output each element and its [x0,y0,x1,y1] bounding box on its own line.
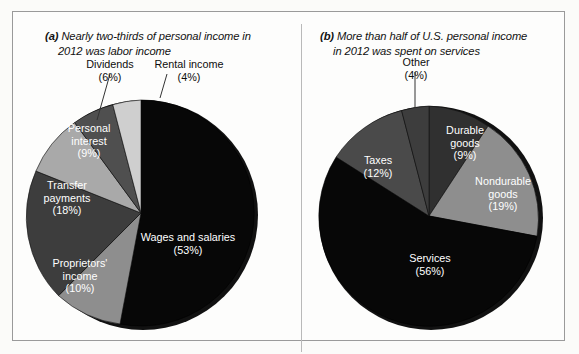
pie-b-label-taxes-pct: (12%) [342,167,414,180]
pie-b-label-durable-name: Durable [446,124,484,136]
pie-b-label-nondurable-name: Nondurable [475,175,531,187]
pie-a-label-wages-pct: (53%) [123,244,253,257]
pie-b-label-durable-pct: (9%) [427,149,503,162]
pie-a-label-transfer-name: Transfer [47,179,87,191]
pie-b-label-services-pct: (56%) [380,265,480,278]
pie-a-label-rental-pct: (4%) [135,71,243,84]
pie-a-label-dividends-name: Dividends [86,58,133,70]
figure-frame: (a) Nearly two-thirds of personal income… [12,11,565,341]
pie-a-label-transfer-pct: (18%) [19,204,115,217]
pie-a-label-interest-pct: (9%) [45,147,133,160]
pie-b-label-nondurable-pct: (19%) [457,200,549,213]
pie-b-label-services: Services (56%) [380,252,480,277]
pie-b-label-other: Other (4%) [370,56,462,81]
pie-b-label-other-pct: (4%) [370,69,462,82]
pie-a-label-interest-name: Personal [68,122,111,134]
pie-a-label-rental-name: Rental income [154,58,223,70]
pie-a-label-proprietors-pct: (10%) [31,282,129,295]
pie-b-label-durable-name2: goods [427,137,503,150]
pie-b-label-nondurable-name2: goods [457,188,549,201]
pie-b-label-taxes: Taxes (12%) [342,154,414,179]
pie-a-label-proprietors-name: Proprietors' [53,257,108,269]
figure-root: (a) Nearly two-thirds of personal income… [0,0,579,354]
pie-b-label-services-name: Services [409,252,450,264]
pie-a-label-interest: Personal interest (9%) [45,122,133,160]
pie-a-label-wages-name: Wages and salaries [141,231,235,243]
pie-b-label-nondurable: Nondurable goods (19%) [457,175,549,213]
pie-b-label-other-name: Other [402,56,429,68]
panel-b: (b) More than half of U.S. personal inco… [290,12,566,342]
pie-a-label-wages: Wages and salaries (53%) [123,231,253,256]
pie-a-label-interest-name2: interest [45,135,133,148]
pie-a-label-transfer-name2: payments [19,192,115,205]
pie-a-label-proprietors: Proprietors' income (10%) [31,257,129,295]
pie-b-label-durable: Durable goods (9%) [427,124,503,162]
panel-a: (a) Nearly two-thirds of personal income… [13,12,290,342]
pie-b-label-taxes-name: Taxes [364,154,392,166]
pie-a-label-proprietors-name2: income [31,270,129,283]
pie-a-label-rental: Rental income (4%) [135,58,243,83]
pie-a-label-transfer: Transfer payments (18%) [19,179,115,217]
